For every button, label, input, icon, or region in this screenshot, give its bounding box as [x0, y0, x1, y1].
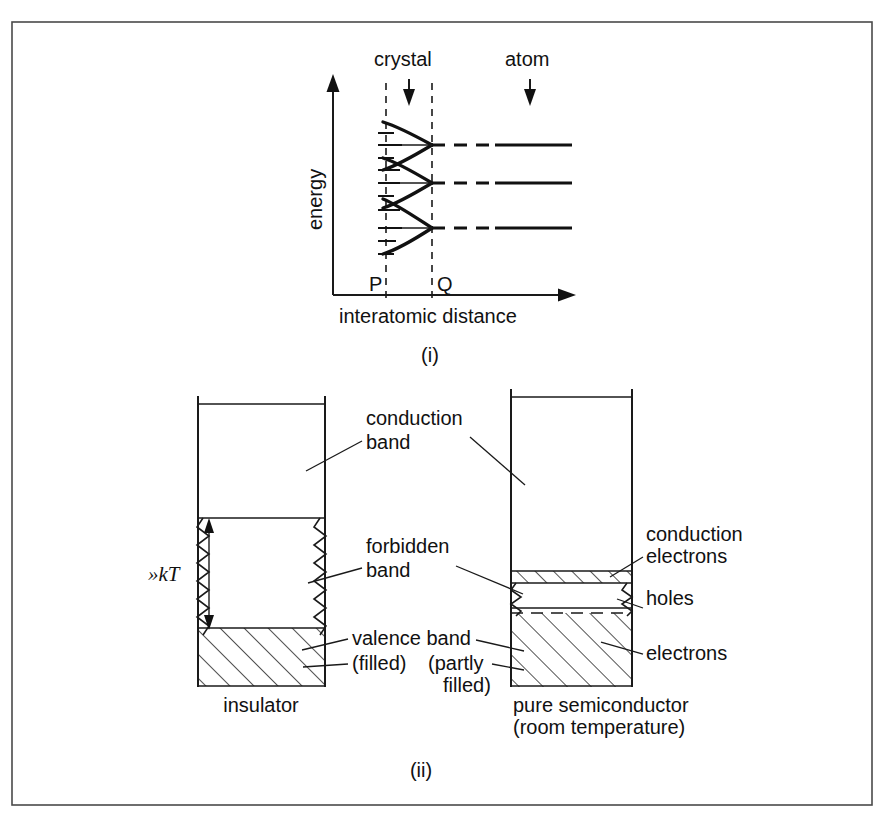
- caption-panel-i: (i): [421, 344, 439, 366]
- label-conduction-line1: conduction: [366, 407, 463, 429]
- semiconductor-conduction-electrons-hatch: [511, 571, 632, 583]
- energy-axis-label: energy: [304, 169, 326, 230]
- label-conduction-line2: band: [366, 431, 411, 453]
- insulator-diagram: »kT insulator: [148, 396, 326, 716]
- leader-forbidden-to-insulator: [308, 568, 362, 583]
- band-3-upper-branch: [383, 199, 432, 228]
- semiconductor-name-label: pure semiconductor: [513, 694, 689, 716]
- label-forbidden-line2: band: [366, 559, 411, 581]
- crystal-arrowhead: [403, 89, 415, 106]
- label-holes: holes: [646, 587, 694, 609]
- panel-i: energy interatomic distance P Q crystal …: [304, 48, 576, 366]
- band-group-3: [383, 199, 572, 254]
- distance-axis-arrowhead: [558, 289, 576, 302]
- label-filled2: filled): [443, 674, 491, 696]
- marker-label-q: Q: [437, 273, 453, 295]
- kt-label: »kT: [148, 562, 181, 586]
- panel-ii: »kT insulator: [148, 389, 743, 781]
- band-group-2: [383, 158, 572, 208]
- label-forbidden-line1: forbidden: [366, 535, 449, 557]
- label-filled: (filled): [352, 652, 406, 674]
- semiconductor-gap-zigzag-left: [511, 583, 521, 616]
- energy-axis-arrowhead: [327, 74, 340, 92]
- crystal-label: crystal: [374, 48, 432, 70]
- atom-label: atom: [505, 48, 549, 70]
- figure-container: energy interatomic distance P Q crystal …: [0, 0, 886, 820]
- semiconductor-valence-hatch: [511, 613, 632, 687]
- label-conduction-electrons-line1: conduction: [646, 523, 743, 545]
- atom-arrowhead: [524, 89, 536, 106]
- leader-conduction-to-insulator: [306, 441, 362, 471]
- sublevel-ticks: [378, 133, 402, 254]
- semiconductor-gap-zigzag-right: [622, 583, 632, 616]
- leader-conduction-to-semiconductor: [470, 437, 525, 485]
- marker-label-p: P: [369, 273, 382, 295]
- caption-panel-ii: (ii): [410, 759, 432, 781]
- semiconductor-name-label-line2: (room temperature): [513, 716, 685, 738]
- band-group-1: [383, 122, 572, 170]
- band-diagram-svg: energy interatomic distance P Q crystal …: [0, 0, 886, 820]
- insulator-valence-hatch: [198, 628, 325, 686]
- label-conduction-electrons-line2: electrons: [646, 545, 727, 567]
- distance-axis-label: interatomic distance: [339, 305, 517, 327]
- kt-arrowhead-up: [204, 518, 214, 533]
- label-valence-band: valence band: [352, 627, 471, 649]
- label-partly: (partly: [428, 652, 484, 674]
- insulator-name-label: insulator: [223, 694, 299, 716]
- center-label-column: conduction band forbidden band valence b…: [302, 407, 525, 696]
- leader-holes: [617, 599, 643, 608]
- label-electrons: electrons: [646, 642, 727, 664]
